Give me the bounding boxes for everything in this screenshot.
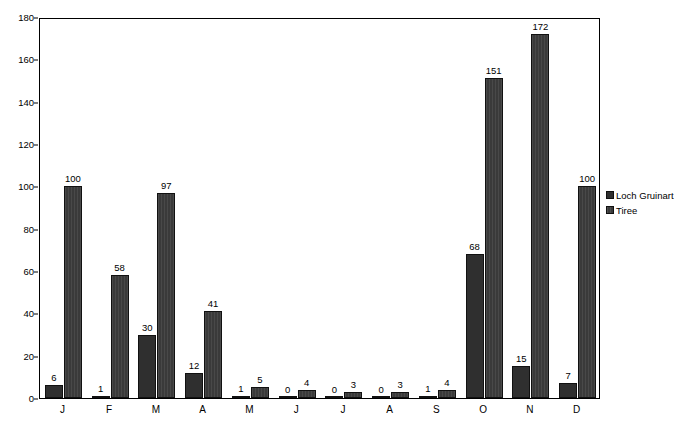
bar-value-label: 4: [292, 378, 322, 388]
bar-group: 03: [372, 19, 409, 398]
bar-group: 14: [419, 19, 456, 398]
bar-group: 03: [325, 19, 362, 398]
bar-loch-gruinart: [372, 396, 390, 398]
bar-value-label: 97: [151, 181, 181, 191]
bar-group: 15172: [512, 19, 549, 398]
y-axis-tick-mark: [34, 145, 38, 146]
bar-group: 68151: [466, 19, 503, 398]
y-axis-tick-mark: [34, 399, 38, 400]
y-axis-tick-mark: [34, 60, 38, 61]
y-axis-tick-mark: [34, 187, 38, 188]
legend-color-swatch: [606, 191, 614, 199]
bar-value-label: 58: [105, 263, 135, 273]
x-axis-tick-label: J: [42, 404, 82, 416]
bar-group: 7100: [559, 19, 596, 398]
bar-loch-gruinart: [325, 396, 343, 398]
bar-tiree: [391, 392, 409, 398]
bar-group: 04: [279, 19, 316, 398]
x-axis-tick-label: O: [463, 404, 503, 416]
y-axis-tick-label: 120: [0, 140, 34, 150]
x-axis: JFMAMJJASOND: [39, 402, 600, 424]
legend: Loch GruinartTiree: [606, 188, 692, 218]
bar-value-label: 172: [525, 22, 555, 32]
y-axis-tick-label: 140: [0, 98, 34, 108]
bar-value-label: 100: [572, 174, 602, 184]
bar-loch-gruinart: [92, 396, 110, 398]
bar-loch-gruinart: [138, 335, 156, 399]
bar-tiree: [111, 275, 129, 398]
legend-label: Tiree: [616, 205, 637, 216]
bar-tiree: [157, 193, 175, 398]
bar-loch-gruinart: [466, 254, 484, 398]
x-axis-tick-label: D: [557, 404, 597, 416]
bar-loch-gruinart: [232, 396, 250, 398]
y-axis-tick-label: 60: [0, 267, 34, 277]
y-axis-tick-mark: [34, 356, 38, 357]
x-axis-tick-label: F: [89, 404, 129, 416]
bar-tiree: [485, 78, 503, 398]
y-axis-tick-label: 180: [0, 13, 34, 23]
y-axis-tick-mark: [34, 18, 38, 19]
y-axis-tick-label: 20: [0, 352, 34, 362]
x-axis-tick-label: A: [183, 404, 223, 416]
y-axis-tick-mark: [34, 272, 38, 273]
bar-group: 3097: [138, 19, 175, 398]
bar-group: 6100: [45, 19, 82, 398]
bar-tiree: [64, 186, 82, 398]
bar-value-label: 3: [385, 380, 415, 390]
bar-loch-gruinart: [512, 366, 530, 398]
bar-value-label: 100: [58, 174, 88, 184]
y-axis-tick-mark: [34, 229, 38, 230]
bar-loch-gruinart: [419, 396, 437, 398]
bar-loch-gruinart: [279, 396, 297, 398]
x-axis-tick-label: M: [136, 404, 176, 416]
legend-item[interactable]: Tiree: [606, 203, 692, 217]
bar-group: 158: [92, 19, 129, 398]
bar-value-label: 5: [245, 375, 275, 385]
legend-color-swatch: [606, 206, 614, 214]
x-axis-tick-label: A: [370, 404, 410, 416]
bar-group: 1241: [185, 19, 222, 398]
x-axis-tick-label: J: [276, 404, 316, 416]
bar-loch-gruinart: [45, 385, 63, 398]
bar-group: 15: [232, 19, 269, 398]
legend-item[interactable]: Loch Gruinart: [606, 188, 692, 202]
bar-value-label: 3: [338, 380, 368, 390]
bar-tiree: [204, 311, 222, 398]
y-axis-tick-mark: [34, 314, 38, 315]
x-axis-tick-label: M: [229, 404, 269, 416]
y-axis: 020406080100120140160180: [0, 0, 39, 427]
x-axis-tick-label: J: [323, 404, 363, 416]
x-axis-tick-label: N: [510, 404, 550, 416]
bar-value-label: 41: [198, 299, 228, 309]
x-axis-tick-label: S: [416, 404, 456, 416]
bar-tiree: [578, 186, 596, 398]
bar-loch-gruinart: [559, 383, 577, 398]
y-axis-tick-mark: [34, 102, 38, 103]
bar-tiree: [298, 390, 316, 398]
bar-chart: 020406080100120140160180 610015830971241…: [0, 0, 694, 427]
y-axis-tick-label: 100: [0, 183, 34, 193]
y-axis-tick-label: 160: [0, 56, 34, 66]
legend-label: Loch Gruinart: [616, 190, 674, 201]
bar-tiree: [344, 392, 362, 398]
plot-area: 610015830971241150403031468151151727100: [39, 18, 600, 399]
y-axis-tick-label: 40: [0, 310, 34, 320]
bars-layer: 610015830971241150403031468151151727100: [40, 19, 599, 398]
y-axis-tick-label: 80: [0, 225, 34, 235]
bar-value-label: 151: [479, 66, 509, 76]
bar-tiree: [531, 34, 549, 398]
y-axis-tick-label: 0: [0, 394, 34, 404]
bar-value-label: 4: [432, 378, 462, 388]
bar-tiree: [251, 387, 269, 398]
bar-loch-gruinart: [185, 373, 203, 398]
bar-tiree: [438, 390, 456, 398]
